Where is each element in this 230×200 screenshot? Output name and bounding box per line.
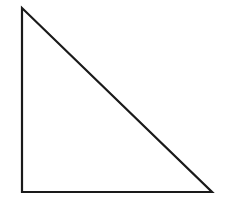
triangle-diagram [0, 0, 230, 200]
diagram-canvas [0, 0, 230, 200]
right-triangle-shape [22, 8, 212, 192]
